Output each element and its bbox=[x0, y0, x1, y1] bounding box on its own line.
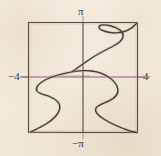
y-axis-max-label: π bbox=[78, 6, 84, 17]
horizontal-axis-group bbox=[20, 76, 150, 77]
graph-figure: π −π −4 4 bbox=[0, 0, 161, 156]
x-axis-min-label: −4 bbox=[8, 71, 20, 82]
plot-canvas bbox=[0, 0, 161, 156]
y-axis-min-label: −π bbox=[72, 138, 84, 149]
x-axis-max-label: 4 bbox=[143, 71, 149, 82]
curve-upper-lobe bbox=[72, 24, 137, 72]
